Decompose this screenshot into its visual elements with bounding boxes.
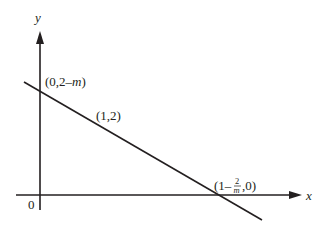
given-point-label: (1,2): [96, 108, 121, 123]
x-axis-label: x: [305, 188, 312, 203]
graph-line: [24, 82, 262, 220]
x-axis: [16, 191, 302, 199]
origin-label: 0: [28, 197, 35, 212]
y-axis: [36, 31, 44, 210]
x-intercept-prefix: (1–: [214, 178, 232, 193]
y-intercept-label: (0,2–m): [45, 74, 86, 89]
x-axis-arrow-icon: [289, 191, 302, 199]
y-axis-label: y: [33, 10, 41, 25]
x-intercept-frac-den: m: [234, 185, 240, 195]
y-axis-arrow-icon: [36, 31, 44, 44]
y-intercept-prefix: (0,2–: [45, 74, 73, 89]
coordinate-diagram: y x 0 (0,2–m) (1,2) (1– 2 m ,0): [0, 0, 323, 242]
y-intercept-var: m: [72, 74, 81, 89]
y-intercept-suffix: ): [81, 74, 85, 89]
x-intercept-suffix: ,0): [242, 178, 256, 193]
x-intercept-label: (1– 2 m ,0): [214, 176, 256, 195]
